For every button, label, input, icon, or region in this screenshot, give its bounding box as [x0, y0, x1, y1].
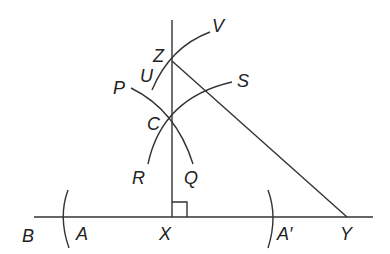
label-c: C [147, 114, 161, 134]
label-b: B [22, 226, 34, 246]
arc-pq [131, 88, 193, 164]
label-q: Q [184, 168, 198, 188]
label-r: R [132, 168, 145, 188]
right-angle-marker [172, 202, 187, 217]
label-z: Z [152, 46, 165, 66]
label-a-prime: A′ [276, 224, 293, 244]
label-v: V [212, 16, 226, 36]
label-s: S [237, 71, 249, 91]
arc-rs [148, 82, 232, 164]
label-p: P [113, 78, 125, 98]
geometry-diagram: B A X A′ Y Z V U P S C R Q [0, 0, 390, 254]
label-x: X [158, 224, 172, 244]
arc-a-prime [268, 190, 273, 248]
label-u: U [140, 66, 154, 86]
label-a: A [75, 224, 88, 244]
arc-a [63, 190, 69, 248]
segment-zy [172, 61, 347, 217]
label-y: Y [340, 224, 354, 244]
